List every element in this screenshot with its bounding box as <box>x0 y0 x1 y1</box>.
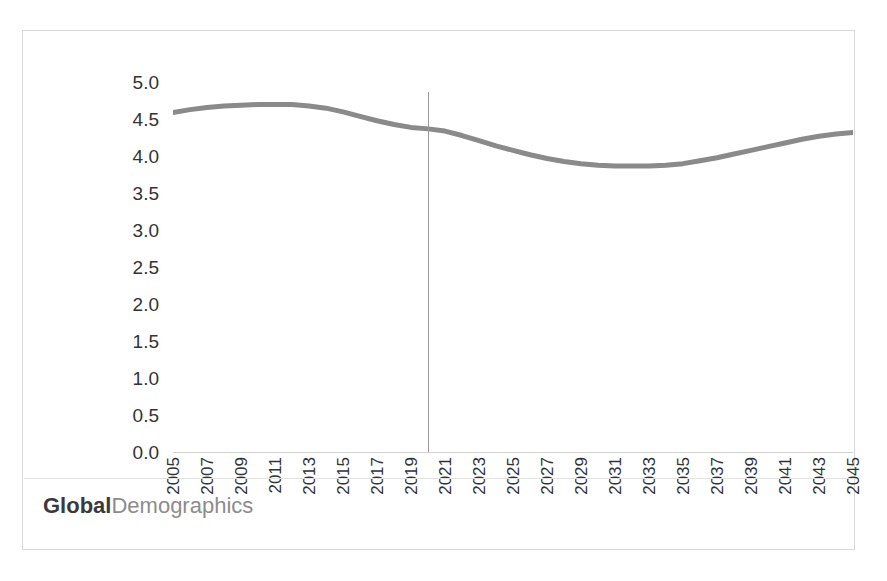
x-tick-label: 2011 <box>266 457 286 494</box>
x-tick-label: 2035 <box>674 457 694 495</box>
x-tick-label: 2015 <box>334 457 354 495</box>
x-tick-label: 2041 <box>776 457 796 495</box>
x-tick-label: 2017 <box>368 457 388 495</box>
x-tick-label: 2045 <box>844 457 864 495</box>
chart-card: 5.04.54.03.53.02.52.01.51.00.50.0 Births… <box>22 30 855 550</box>
y-tick-label: 2.5 <box>111 257 159 279</box>
y-tick-label: 1.5 <box>111 331 159 353</box>
x-axis-tick-labels: 2005200720092011201320152017201920212023… <box>173 457 853 537</box>
x-tick-label: 2027 <box>538 457 558 495</box>
brand-primary-text: Global <box>43 493 111 518</box>
y-tick-label: 4.5 <box>111 109 159 131</box>
y-tick-label: 4.0 <box>111 146 159 168</box>
x-tick-label: 2005 <box>164 457 184 495</box>
forecast-divider-line <box>428 92 429 452</box>
x-tick-label: 2037 <box>708 457 728 495</box>
brand-secondary-text: Demographics <box>111 493 253 518</box>
y-tick-label: 0.0 <box>111 442 159 464</box>
x-tick-label: 2033 <box>640 457 660 495</box>
births-line-series <box>173 83 853 453</box>
y-axis-tick-labels: 5.04.54.03.53.02.52.01.51.00.50.0 <box>75 83 167 453</box>
y-tick-label: 5.0 <box>111 72 159 94</box>
brand-logo: GlobalDemographics <box>43 493 253 519</box>
y-tick-label: 3.5 <box>111 183 159 205</box>
y-tick-label: 0.5 <box>111 405 159 427</box>
x-tick-label: 2029 <box>572 457 592 495</box>
footer-divider <box>24 478 855 479</box>
plot-area <box>173 83 853 453</box>
chart-screenshot: 5.04.54.03.53.02.52.01.51.00.50.0 Births… <box>0 0 887 581</box>
x-tick-label: 2019 <box>402 457 422 495</box>
x-tick-label: 2013 <box>300 457 320 495</box>
x-axis-baseline <box>173 452 853 453</box>
x-tick-label: 2009 <box>232 457 252 495</box>
x-tick-label: 2043 <box>810 457 830 495</box>
x-tick-label: 2031 <box>606 457 626 495</box>
y-tick-label: 3.0 <box>111 220 159 242</box>
x-tick-label: 2025 <box>504 457 524 495</box>
x-tick-label: 2007 <box>198 457 218 495</box>
y-tick-label: 2.0 <box>111 294 159 316</box>
x-tick-label: 2039 <box>742 457 762 495</box>
y-tick-label: 1.0 <box>111 368 159 390</box>
series-line-births <box>173 104 853 165</box>
x-tick-label: 2023 <box>470 457 490 495</box>
x-tick-label: 2021 <box>436 457 456 495</box>
